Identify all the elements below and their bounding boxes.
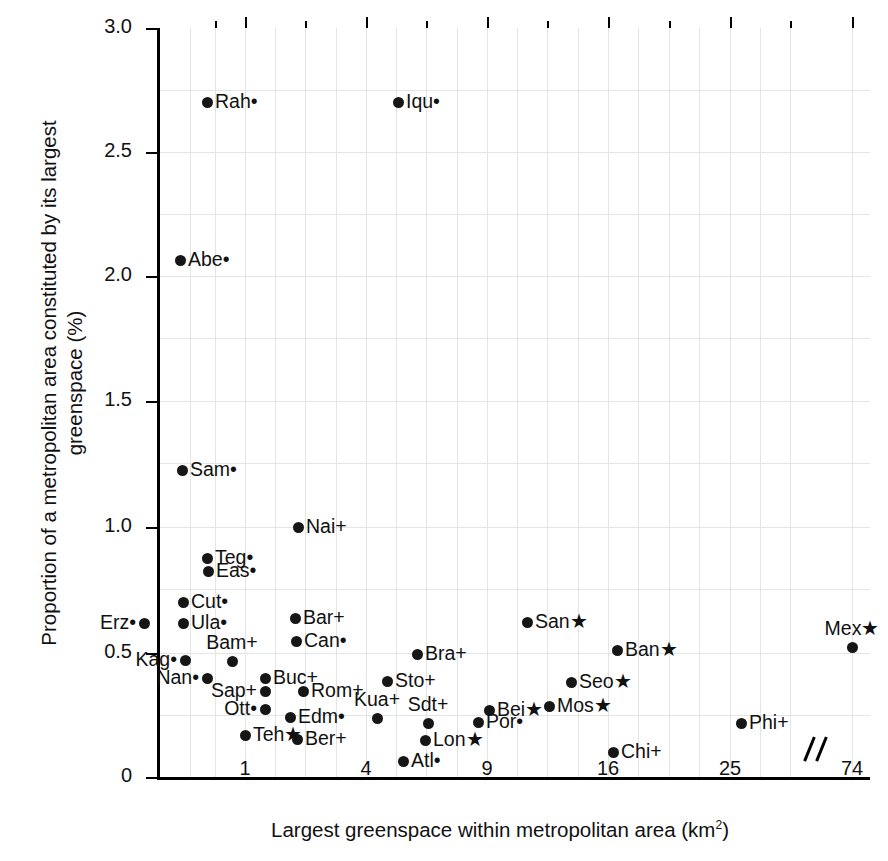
x-tick-label: 74 (822, 757, 882, 780)
data-point-label: Edm• (298, 707, 345, 727)
data-point-marker[interactable] (178, 618, 189, 629)
gridline-horizontal (157, 527, 870, 528)
y-tick-label: 0.5 (62, 640, 132, 663)
y-axis-tick (146, 276, 157, 278)
gridline-vertical (396, 28, 397, 777)
x-axis-title-tail: ) (722, 818, 729, 841)
data-point-marker[interactable] (423, 718, 434, 729)
x-tick-label: 9 (457, 757, 517, 780)
data-point-label: Teh★ (253, 725, 302, 745)
data-point-label: Ban★ (625, 640, 678, 660)
gridline-horizontal (157, 90, 870, 91)
data-point-marker[interactable] (180, 655, 191, 666)
gridline-vertical (638, 28, 639, 777)
data-point-label: Lon★ (433, 730, 484, 750)
data-point-marker[interactable] (398, 756, 409, 767)
gridline-horizontal (157, 589, 870, 590)
plot-area: Rah•Iqu•Abe•Sam•Nai+Teg•Eas•Cut•Erz•Ula•… (157, 28, 870, 777)
data-point-marker[interactable] (382, 676, 393, 687)
data-point-marker[interactable] (175, 255, 186, 266)
gridline-vertical (336, 28, 337, 777)
data-point-marker[interactable] (608, 747, 619, 758)
data-point-marker[interactable] (736, 718, 747, 729)
data-point-marker[interactable] (285, 712, 296, 723)
data-point-marker[interactable] (372, 713, 383, 724)
data-point-marker[interactable] (393, 97, 404, 108)
gridline-vertical (578, 28, 579, 777)
data-point-marker[interactable] (240, 730, 251, 741)
gridline-vertical (760, 28, 761, 777)
data-point-label: Bra+ (425, 644, 467, 664)
data-point-marker[interactable] (566, 677, 577, 688)
data-point-marker[interactable] (203, 566, 214, 577)
gridline-horizontal (157, 276, 870, 277)
data-point-label: Erz• (100, 613, 136, 633)
data-point-label: Seo★ (579, 672, 632, 692)
x-axis-minor-tick (215, 21, 217, 28)
y-axis-tick (146, 777, 157, 779)
x-axis-title: Largest greenspace within metropolitan a… (150, 818, 850, 842)
data-point-label: Nan• (156, 668, 199, 688)
y-tick-label: 3.0 (62, 15, 132, 38)
data-point-label: Kua+ (354, 690, 400, 710)
gridline-vertical (215, 28, 216, 777)
data-point-label: Cut• (191, 592, 228, 612)
data-point-marker[interactable] (522, 617, 533, 628)
x-tick-label: 25 (700, 757, 760, 780)
y-axis-tick (146, 152, 157, 154)
data-point-marker[interactable] (202, 553, 213, 564)
data-point-marker[interactable] (298, 686, 309, 697)
data-point-marker[interactable] (227, 656, 238, 667)
data-point-marker[interactable] (290, 613, 301, 624)
data-point-marker[interactable] (291, 636, 302, 647)
x-axis-minor-tick (426, 21, 428, 28)
gridline-vertical (608, 28, 609, 777)
gridline-vertical (730, 28, 731, 777)
data-point-marker[interactable] (260, 686, 271, 697)
data-point-marker[interactable] (544, 701, 555, 712)
data-point-marker[interactable] (847, 642, 858, 653)
gridline-horizontal (157, 463, 870, 464)
x-axis-minor-tick (790, 21, 792, 28)
y-axis-tick (146, 401, 157, 403)
x-axis-tick (245, 17, 247, 28)
gridline-vertical (852, 28, 853, 777)
data-point-marker[interactable] (473, 717, 484, 728)
data-point-label: Nai+ (306, 517, 347, 537)
data-point-marker[interactable] (178, 597, 189, 608)
data-point-marker[interactable] (177, 465, 188, 476)
x-axis-tick (852, 17, 854, 28)
data-point-marker[interactable] (260, 673, 271, 684)
data-point-label: San★ (535, 612, 588, 632)
data-point-label: Sam• (190, 460, 237, 480)
gridline-vertical (426, 28, 427, 777)
gridline-vertical (245, 28, 246, 777)
data-point-label: Atl• (411, 751, 441, 771)
gridline-vertical (517, 28, 518, 777)
data-point-marker[interactable] (202, 97, 213, 108)
data-point-marker[interactable] (139, 618, 150, 629)
data-point-label: Ott• (224, 699, 257, 719)
gridline-vertical (790, 28, 791, 777)
data-point-marker[interactable] (412, 649, 423, 660)
data-point-marker[interactable] (612, 645, 623, 656)
data-point-label: Bam+ (206, 633, 257, 653)
gridline-vertical (547, 28, 548, 777)
data-point-marker[interactable] (293, 522, 304, 533)
gridline-vertical (275, 28, 276, 777)
data-point-label: Bar+ (303, 608, 345, 628)
data-point-marker[interactable] (260, 704, 271, 715)
y-tick-label: 1.5 (62, 388, 132, 411)
y-tick-label: 2.5 (62, 139, 132, 162)
x-axis-minor-tick (305, 21, 307, 28)
data-point-marker[interactable] (420, 735, 431, 746)
data-point-label: Eas• (216, 561, 256, 581)
x-axis-tick (608, 17, 610, 28)
x-axis-minor-tick (669, 21, 671, 28)
gridline-horizontal (157, 152, 870, 153)
y-tick-label: 2.0 (62, 263, 132, 286)
gridline-vertical (190, 28, 191, 777)
y-tick-label: 1.0 (62, 514, 132, 537)
gridline-horizontal (157, 401, 870, 402)
x-tick-label: 1 (215, 757, 275, 780)
